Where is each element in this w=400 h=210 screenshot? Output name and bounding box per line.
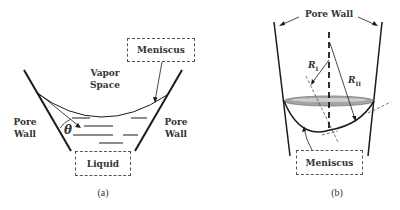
vapor-space-line2: Space bbox=[85, 79, 125, 91]
contact-angle-symbol: θ bbox=[64, 123, 72, 137]
radius-2-label: RII bbox=[348, 75, 361, 87]
liquid-label: Liquid bbox=[87, 159, 119, 169]
tangent-dashed-line-right bbox=[368, 102, 391, 113]
liquid-callout-box: Liquid bbox=[75, 151, 131, 176]
caption-b: (b) bbox=[322, 187, 352, 198]
panel-a: Meniscus Vapor Space Pore Wall Pore Wall… bbox=[0, 0, 200, 210]
pore-wall-right-line1: Pore bbox=[161, 116, 191, 128]
meniscus-lens-highlight bbox=[291, 98, 367, 102]
meniscus-callout-box: Meniscus bbox=[127, 38, 195, 62]
caption-a: (a) bbox=[88, 187, 118, 198]
arrowhead-left-icon bbox=[279, 21, 285, 26]
meniscus-pointer-line bbox=[155, 62, 162, 101]
panel-b-drawing bbox=[200, 0, 400, 210]
vapor-space-line1: Vapor bbox=[85, 67, 125, 79]
meniscus-label: Meniscus bbox=[306, 158, 354, 168]
arrowhead-right-icon bbox=[372, 21, 378, 26]
meniscus-callout-box: Meniscus bbox=[296, 150, 363, 175]
pore-wall-left-line2: Wall bbox=[10, 128, 40, 140]
meniscus-arrowhead-icon bbox=[153, 97, 158, 103]
panel-a-drawing bbox=[0, 0, 200, 210]
panel-b: Pore Wall RI RII Meniscus (b) bbox=[200, 0, 400, 210]
pore-wall-right-line2: Wall bbox=[161, 128, 191, 140]
pore-wall-label: Pore Wall bbox=[303, 8, 355, 20]
pore-wall-right-label: Pore Wall bbox=[161, 116, 191, 140]
meniscus-curve bbox=[37, 93, 167, 117]
pore-wall-left-line1: Pore bbox=[10, 116, 40, 128]
pore-wall-left-label: Pore Wall bbox=[10, 116, 40, 140]
tangent-line bbox=[38, 93, 80, 127]
vapor-space-label: Vapor Space bbox=[85, 67, 125, 91]
radius-1-subscript: I bbox=[315, 65, 318, 72]
radius-2-subscript: II bbox=[355, 80, 361, 87]
radius-1-label: RI bbox=[308, 60, 318, 72]
meniscus-label: Meniscus bbox=[137, 45, 185, 55]
pore-wall-left-line bbox=[274, 22, 290, 156]
pore-wall-right-line bbox=[368, 22, 382, 156]
